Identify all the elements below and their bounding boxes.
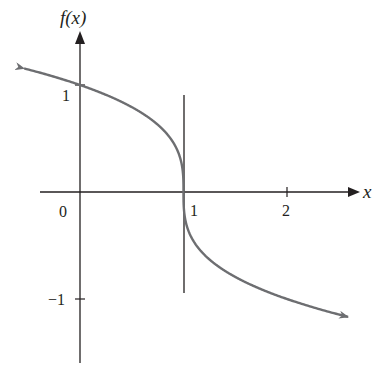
function-curve	[24, 68, 348, 316]
y-axis-label: f(x)	[60, 7, 86, 29]
x-axis-arrow-icon	[348, 187, 360, 197]
function-graph: f(x) x 0 1 2 1 −1	[0, 0, 383, 381]
y-axis-arrow-icon	[75, 31, 85, 44]
x-tick-label-2: 2	[282, 202, 290, 219]
x-axis-label: x	[362, 181, 372, 202]
y-tick-label-neg1: −1	[48, 291, 65, 308]
x-tick-label-1: 1	[190, 202, 198, 219]
y-tick-label-1: 1	[62, 87, 70, 104]
origin-label: 0	[59, 203, 67, 220]
